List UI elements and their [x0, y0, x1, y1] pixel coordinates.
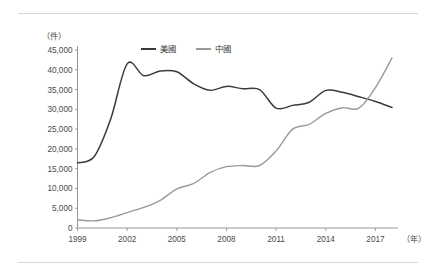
y-tick-label: 5,000 — [52, 204, 73, 213]
figure-root: 05,00010,00015,00020,00025,00030,00035,0… — [0, 0, 436, 275]
chart-canvas: 05,00010,00015,00020,00025,00030,00035,0… — [0, 0, 436, 275]
line-chart: 05,00010,00015,00020,00025,00030,00035,0… — [0, 0, 436, 275]
series-line-china — [78, 58, 393, 221]
x-tick-label: 1999 — [68, 235, 87, 244]
x-tick-label: 2002 — [118, 235, 137, 244]
series-line-us — [78, 62, 393, 163]
x-tick-label: 2008 — [217, 235, 236, 244]
y-tick-label: 30,000 — [47, 105, 72, 114]
x-axis-tick-labels: 1999200220052008201120142017 — [68, 235, 385, 244]
y-axis-tick-labels: 05,00010,00015,00020,00025,00030,00035,0… — [47, 46, 72, 233]
x-tick-label: 2011 — [267, 235, 285, 244]
y-tick-label: 35,000 — [47, 86, 72, 95]
y-axis-unit-label: （件） — [42, 31, 66, 41]
y-tick-label: 0 — [68, 224, 73, 233]
legend-label-china: 中國 — [215, 44, 231, 54]
series-lines — [78, 58, 393, 221]
x-tick-label: 2005 — [168, 235, 187, 244]
x-axis-unit-label: （年） — [402, 234, 426, 244]
x-tick-label: 2017 — [366, 235, 385, 244]
legend-label-us: 美國 — [160, 44, 176, 54]
x-tick-label: 2014 — [317, 235, 336, 244]
chart-legend: 美國中國 — [141, 44, 231, 54]
y-tick-label: 20,000 — [47, 145, 72, 154]
y-tick-label: 15,000 — [47, 165, 72, 174]
y-tick-label: 40,000 — [47, 66, 72, 75]
y-tick-label: 25,000 — [47, 125, 72, 134]
y-tick-label: 10,000 — [47, 184, 72, 193]
y-tick-label: 45,000 — [47, 46, 72, 55]
